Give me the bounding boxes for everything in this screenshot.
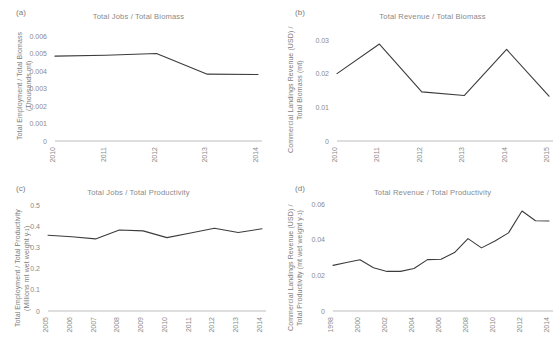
x-tick-label: 2010 [331,147,338,163]
x-tick-label: 2004 [408,317,415,333]
y-tick-label: 0.004 [29,68,47,75]
y-tick-label: 0.003 [29,85,47,92]
panel-d-plot: 00.020.040.06199820002002200420062008201… [277,176,554,353]
figure-panel-grid: (a) Total Jobs / Total Biomass Total Emp… [0,0,554,353]
x-tick-label: 2010 [161,317,168,333]
x-tick-label: 2011 [185,317,192,332]
y-tick-label: 0.005 [29,50,47,57]
panel-c: (c) Total Jobs / Total Productivity Tota… [0,176,277,353]
x-tick-label: 1998 [327,317,334,333]
x-tick-label: 2009 [137,317,144,333]
x-tick-label: 2014 [252,147,259,163]
x-tick-label: 2012 [416,147,423,163]
y-tick-label: 0.3 [30,244,40,251]
x-tick-label: 2008 [113,317,120,333]
x-tick-label: 2015 [543,147,550,163]
x-tick-label: 2006 [435,317,442,333]
data-series-line [55,54,258,75]
x-tick-label: 2014 [501,147,508,163]
x-tick-label: 2012 [516,317,523,333]
x-tick-label: 2014 [256,317,263,333]
x-tick-label: 2013 [201,147,208,163]
y-tick-label: 0.001 [29,120,47,127]
data-series-line [333,211,549,271]
y-tick-label: 0.006 [29,33,47,40]
panel-b-plot: 00.010.020.03201020112012201320142015 [277,0,554,176]
y-tick-label: 0.5 [30,202,40,209]
y-tick-label: 0.02 [311,272,325,279]
y-tick-label: 0.03 [315,37,329,44]
y-tick-label: 0.01 [315,104,329,111]
y-tick-label: 0.4 [30,223,40,230]
x-tick-label: 2008 [462,317,469,333]
x-tick-label: 2007 [90,317,97,333]
x-tick-label: 2012 [208,317,215,333]
panel-b: (b) Total Revenue / Total Biomass Commer… [277,0,554,176]
x-tick-label: 2014 [543,317,550,333]
panel-a: (a) Total Jobs / Total Biomass Total Emp… [0,0,277,176]
panel-a-plot: 00.0010.0020.0030.0040.0050.006201020112… [0,0,277,176]
y-tick-label: 0 [43,138,47,145]
x-tick-label: 2002 [381,317,388,333]
x-tick-label: 2013 [232,317,239,333]
x-tick-label: 2006 [66,317,73,333]
data-series-line [337,44,549,96]
data-series-line [48,228,262,239]
y-tick-label: 0 [325,138,329,145]
x-tick-label: 2010 [49,147,56,163]
y-tick-label: 0.2 [30,265,40,272]
x-tick-label: 2005 [42,317,49,333]
y-tick-label: 0.04 [311,236,325,243]
y-tick-label: 0 [321,308,325,315]
y-tick-label: 0.02 [315,70,329,77]
x-tick-label: 2011 [100,147,107,162]
x-tick-label: 2012 [151,147,158,163]
panel-c-plot: 00.10.20.30.40.5200520062007200820092010… [0,176,277,353]
y-tick-label: 0.1 [30,286,40,293]
x-tick-label: 2011 [373,147,380,162]
y-tick-label: 0.002 [29,103,47,110]
x-tick-label: 2013 [458,147,465,163]
y-tick-label: 0.06 [311,201,325,208]
y-tick-label: 0 [36,308,40,315]
x-tick-label: 2010 [489,317,496,333]
x-tick-label: 2000 [354,317,361,333]
panel-d: (d) Total Revenue / Total Productivity C… [277,176,554,353]
